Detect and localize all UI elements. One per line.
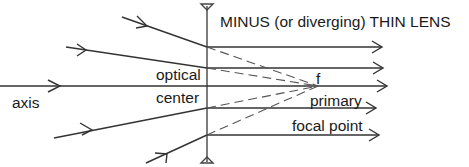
focal-point-label: focal point xyxy=(292,118,363,134)
optical-center-label-line1: optical xyxy=(156,67,201,83)
primary-label: primary xyxy=(310,93,362,109)
axis-label: axis xyxy=(12,95,40,111)
focal-length-label: f xyxy=(316,71,320,87)
optical-center-label-line2: center xyxy=(156,90,199,106)
lens xyxy=(201,4,213,163)
diagram-title: MINUS (or diverging) THIN LENS xyxy=(220,14,451,30)
